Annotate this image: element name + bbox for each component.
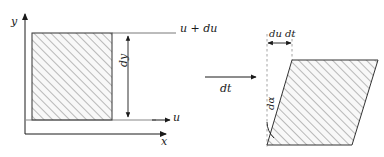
fluid-deformation-figure: y x u u + du dy dt du dt dα <box>0 0 384 157</box>
velocity-u-label: u <box>173 112 180 123</box>
deformed-element-shape <box>267 60 378 145</box>
x-axis-label: x <box>161 136 167 147</box>
dy-dimension-label: dy <box>118 54 129 67</box>
undeformed-element-shape <box>32 33 112 120</box>
dalpha-angle-label: dα <box>266 97 276 110</box>
dt-arrow-label: dt <box>220 83 231 94</box>
dudt-dimension-label: du dt <box>269 29 295 39</box>
velocity-u-plus-du-label: u + du <box>180 23 217 34</box>
y-axis-label: y <box>11 16 17 27</box>
